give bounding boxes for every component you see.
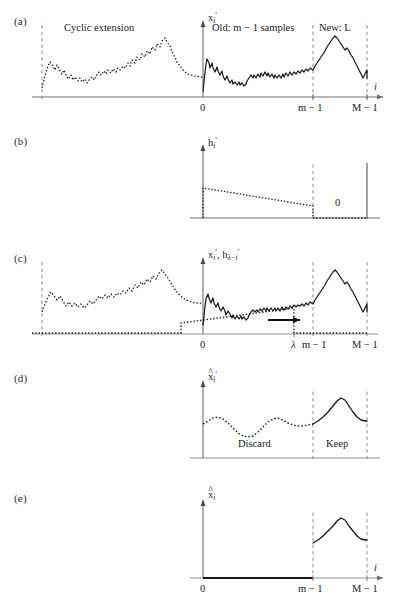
panel-e-tick-label-m-minus-1: m − 1 bbox=[298, 584, 323, 595]
panel-label-a: (a) bbox=[14, 15, 27, 27]
panel-a-current-block-curve bbox=[203, 36, 367, 91]
panel-a-cyclic-extension-curve bbox=[42, 38, 203, 88]
panel-e bbox=[190, 500, 383, 581]
panel-c-tick-label-m-minus-1: m − 1 bbox=[302, 340, 327, 351]
panel-b-impulse-response-curve bbox=[203, 188, 367, 218]
panel-c-y-axis-subscript-2: λ−i bbox=[228, 254, 238, 262]
panel-c bbox=[32, 258, 378, 337]
figure-container: (a) (b) (c) (d) (e) xi′ Cyclic extension… bbox=[0, 0, 405, 607]
panel-a-cyclic-extension-label: Cyclic extension bbox=[64, 23, 134, 34]
panel-e-x-axis-label: i bbox=[374, 563, 377, 574]
panel-d-keep-curve bbox=[313, 398, 367, 424]
panel-label-c: (c) bbox=[14, 252, 27, 264]
panel-e-keep-curve bbox=[313, 518, 367, 543]
figure-canvas bbox=[0, 0, 405, 607]
panel-e-y-axis-label: ^xi bbox=[208, 490, 215, 502]
panel-a-new-samples-label: New: L bbox=[319, 23, 351, 34]
panel-a-old-samples-label: Old: m − 1 samples bbox=[212, 23, 294, 34]
panel-a-tick-label-M-minus-1: M − 1 bbox=[352, 103, 378, 114]
panel-a-y-axis-prime: ′ bbox=[215, 11, 217, 20]
panel-d-discard-label: Discard bbox=[238, 439, 271, 450]
panel-c-y-axis-separator: , bbox=[217, 249, 220, 260]
panel-a-x-axis-label: i bbox=[374, 82, 377, 93]
panel-c-cyclic-extension-curve bbox=[42, 270, 203, 312]
panel-c-tick-label-M-minus-1: M − 1 bbox=[352, 340, 378, 351]
panel-d-y-axis-hat: ^ bbox=[208, 367, 213, 377]
panel-a-tick-label-m-minus-1: m − 1 bbox=[298, 103, 323, 114]
panel-d-keep-label: Keep bbox=[326, 439, 348, 450]
panel-b-y-axis-label: hi′ bbox=[208, 137, 217, 150]
panel-d-y-axis-prime: ′ bbox=[215, 370, 217, 379]
panel-b-zero-region-label: 0 bbox=[335, 198, 340, 209]
panel-label-b: (b) bbox=[14, 135, 27, 147]
panel-d-y-axis-label: ^xi′ bbox=[208, 371, 217, 384]
panel-c-current-block-curve bbox=[203, 270, 367, 325]
panel-c-tick-label-lambda: λ bbox=[291, 340, 296, 351]
panel-c-y-axis-label: xi′, hλ−i′ bbox=[208, 249, 239, 262]
panel-b-y-axis-prime: ′ bbox=[215, 136, 217, 145]
panel-e-y-axis-hat: ^ bbox=[208, 485, 213, 495]
panel-c-flipped-filter-curve bbox=[32, 308, 367, 333]
panel-e-tick-label-M-minus-1: M − 1 bbox=[352, 584, 378, 595]
panel-a-tick-label-origin: 0 bbox=[200, 103, 205, 114]
panel-d-discard-curve bbox=[203, 417, 313, 437]
panel-c-y-axis-prime-2: ′ bbox=[237, 248, 239, 257]
panel-d bbox=[190, 381, 380, 459]
panel-c-tick-label-origin: 0 bbox=[200, 340, 205, 351]
panel-e-y-axis-subscript: i bbox=[213, 494, 215, 502]
panel-e-tick-label-origin: 0 bbox=[200, 584, 205, 595]
panel-label-e: (e) bbox=[14, 492, 27, 504]
panel-b bbox=[190, 145, 380, 219]
panel-label-d: (d) bbox=[14, 372, 27, 384]
